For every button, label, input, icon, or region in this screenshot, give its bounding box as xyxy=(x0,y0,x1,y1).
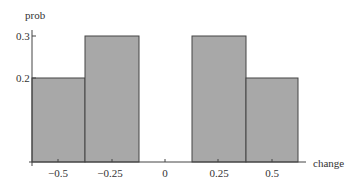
bar-minus-0.25 xyxy=(85,36,139,162)
ytick-label-0.3: 0.3 xyxy=(16,30,30,42)
bars xyxy=(32,36,298,162)
xtick-label-m0.5: −0.5 xyxy=(48,167,68,179)
y-axis-label: prob xyxy=(25,9,46,21)
xtick-label-m0.25: −0.25 xyxy=(97,167,123,179)
xtick-label-0.5: 0.5 xyxy=(265,167,279,179)
bar-minus-0.5 xyxy=(32,78,85,162)
ytick-label-0.2: 0.2 xyxy=(16,72,30,84)
xtick-label-0.25: 0.25 xyxy=(209,167,229,179)
x-axis-label: change xyxy=(313,157,344,169)
xtick-label-0: 0 xyxy=(162,167,168,179)
histogram-chart: prob 0.3 0.2 −0.5 −0.25 0 0.25 0.5 chang… xyxy=(0,0,356,186)
bar-0.5 xyxy=(246,78,298,162)
bar-0.25 xyxy=(192,36,246,162)
